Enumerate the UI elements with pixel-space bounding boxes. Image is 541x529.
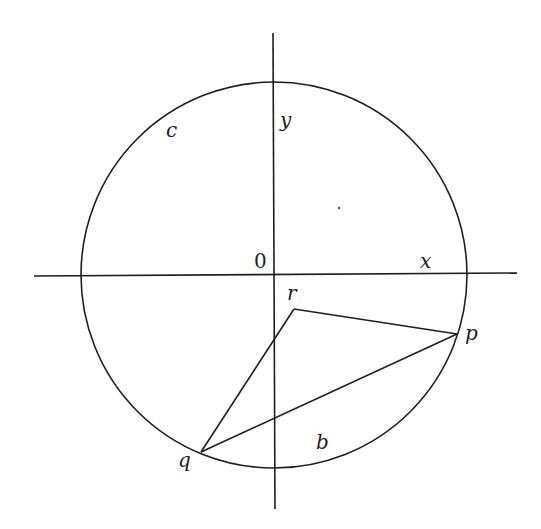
y-axis bbox=[273, 33, 275, 509]
stray-dot bbox=[338, 207, 340, 209]
label-x-axis: x bbox=[420, 249, 431, 273]
label-arc-b: b bbox=[316, 430, 329, 454]
label-point-r: r bbox=[287, 281, 298, 305]
label-circle-c: c bbox=[166, 118, 177, 142]
label-point-q: q bbox=[178, 448, 191, 472]
label-y-axis: y bbox=[279, 108, 292, 132]
label-origin: 0 bbox=[254, 249, 267, 273]
geometry-diagram: y c 0 x r p b q bbox=[0, 0, 541, 529]
segment-rp bbox=[294, 309, 457, 334]
label-point-p: p bbox=[465, 321, 478, 345]
x-axis bbox=[34, 273, 517, 276]
